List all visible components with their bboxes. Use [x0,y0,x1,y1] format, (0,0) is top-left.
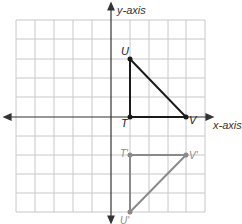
point-t-prime [128,153,133,158]
point-u [128,57,133,62]
triangle-tuv [128,57,189,120]
x-axis-label: x-axis [212,119,242,131]
label-u: U [121,45,129,57]
coordinate-plane: y-axis x-axis U T V T' V' U' [0,0,242,224]
point-t [128,115,133,120]
y-axis [108,3,114,223]
triangle-tuv-prime [128,153,189,215]
label-t-prime: T' [120,148,129,159]
right-arrow-icon [206,114,213,120]
label-u-prime: U' [120,215,130,224]
left-arrow-icon [4,114,11,120]
down-arrow-icon [108,216,114,223]
point-u-prime [128,210,133,215]
up-arrow-icon [108,3,114,10]
point-v [184,115,189,120]
label-v: V [189,114,198,126]
y-axis-label: y-axis [116,4,146,16]
point-v-prime [184,153,189,158]
label-v-prime: V' [189,150,199,161]
label-t: T [121,117,129,129]
